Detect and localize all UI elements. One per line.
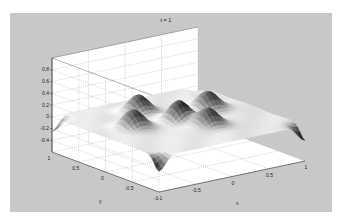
x-tick-label: 0.5 bbox=[266, 172, 273, 178]
surface-plot: -0.4-0.200.20.40.60.8-1-0.500.51-1-0.500… bbox=[10, 13, 332, 212]
z-tick-label: 0.6 bbox=[42, 78, 49, 84]
x-tick-label: 1 bbox=[305, 164, 308, 170]
z-tick-label: -0.2 bbox=[40, 125, 49, 131]
z-tick-label: 0.8 bbox=[42, 66, 49, 72]
y-tick-label: -0.5 bbox=[125, 185, 134, 191]
x-tick-label: -1 bbox=[158, 195, 163, 201]
y-tick-label: -1 bbox=[154, 195, 159, 201]
z-tick-label: -0.4 bbox=[40, 137, 49, 143]
y-tick-label: 0 bbox=[101, 175, 104, 181]
z-tick-label: 0.2 bbox=[42, 102, 49, 108]
z-tick-label: 0.4 bbox=[42, 90, 49, 96]
plot-title: t = 1 bbox=[161, 17, 172, 23]
y-axis-label: y bbox=[99, 198, 102, 204]
x-axis-label: x bbox=[236, 200, 239, 206]
y-tick-label: 0.5 bbox=[72, 165, 79, 171]
y-tick-label: 1 bbox=[48, 155, 51, 161]
z-tick-label: 0 bbox=[46, 113, 49, 119]
x-tick-label: -0.5 bbox=[192, 187, 201, 193]
x-tick-label: 0 bbox=[232, 180, 235, 186]
figure-window: -0.4-0.200.20.40.60.8-1-0.500.51-1-0.500… bbox=[10, 13, 332, 212]
